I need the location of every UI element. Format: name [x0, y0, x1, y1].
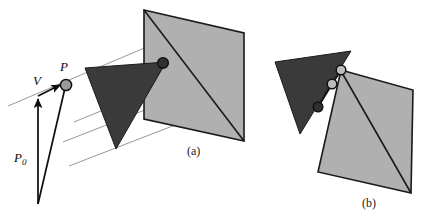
panel-b-vertex-middle — [327, 79, 337, 89]
caption-panel-b: (b) — [362, 196, 376, 210]
panel-b-vertex-top — [336, 65, 346, 75]
label-point-p0: P — [13, 150, 22, 165]
panel-a-point-p — [60, 79, 71, 90]
figure-root: P V P 0 (a) (b) — [0, 0, 433, 219]
caption-panel-a: (a) — [187, 144, 200, 158]
panel-a-intersection-point — [158, 58, 169, 69]
label-point-p: P — [59, 59, 68, 74]
figure-canvas: P V P 0 (a) (b) — [0, 0, 433, 219]
panel-b-vertex-bottom — [313, 102, 323, 112]
label-point-p0-subscript: 0 — [22, 157, 27, 167]
